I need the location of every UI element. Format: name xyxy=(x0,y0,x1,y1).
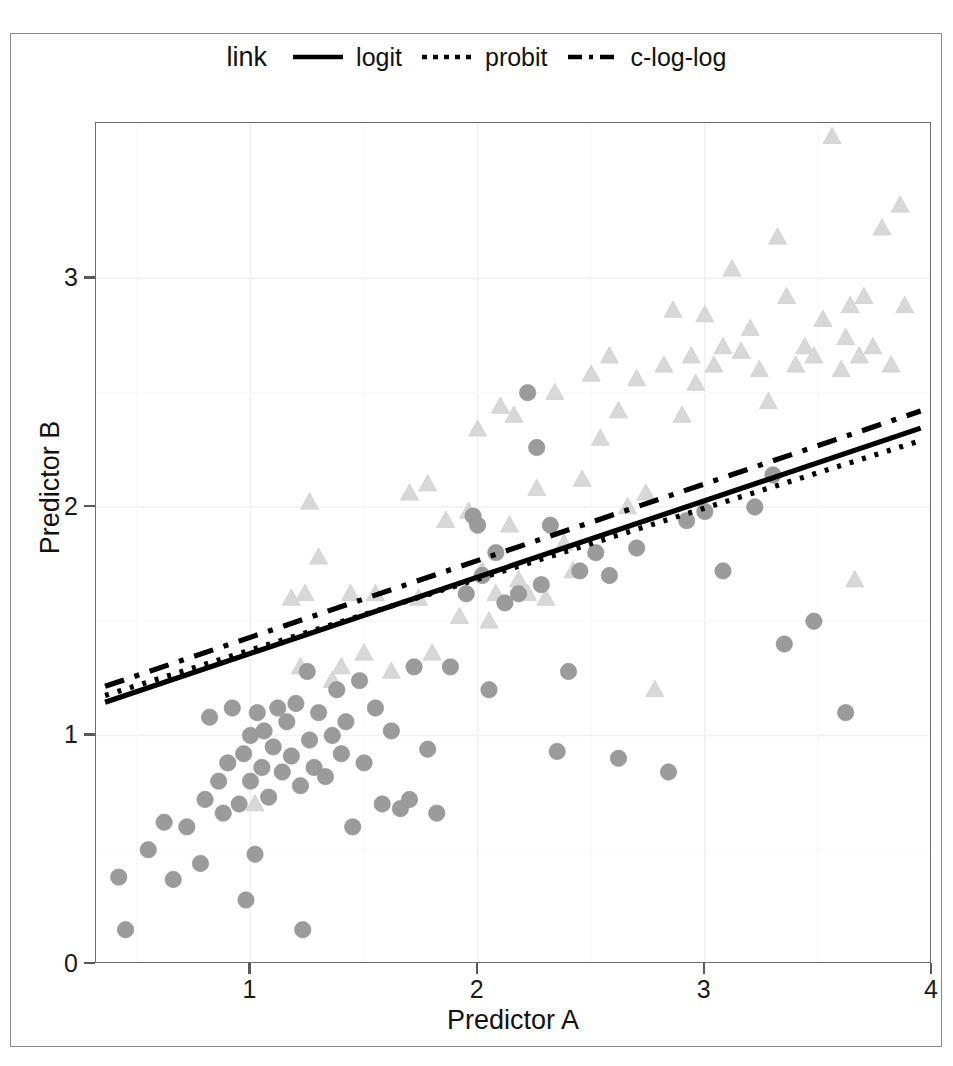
legend-label-logit: logit xyxy=(356,43,402,72)
x-tick-label-3: 3 xyxy=(697,975,711,1004)
fit-line-layer xyxy=(105,411,921,702)
y-tick-label-1: 1 xyxy=(64,720,78,749)
legend: link logit probit c-log-l xyxy=(0,34,953,80)
x-tick-mark-4 xyxy=(930,963,932,974)
legend-item-probit[interactable]: probit xyxy=(420,43,548,72)
y-tick-mark-3 xyxy=(84,276,95,278)
solid-line-key xyxy=(291,50,345,64)
scatter-series-triangles xyxy=(246,127,914,811)
dotted-line-key xyxy=(420,50,474,64)
y-axis-title: Predictor B xyxy=(35,338,66,638)
plot-panel[interactable] xyxy=(95,122,931,963)
legend-item-c-log-log[interactable]: c-log-log xyxy=(566,43,727,72)
y-tick-label-2: 2 xyxy=(64,491,78,520)
legend-label-probit: probit xyxy=(485,43,548,72)
dashed-line-key xyxy=(566,50,620,64)
y-tick-mark-0 xyxy=(84,962,95,964)
plot-canvas xyxy=(96,123,931,963)
legend-item-logit[interactable]: logit xyxy=(291,43,402,72)
y-tick-mark-1 xyxy=(84,733,95,735)
y-tick-label-3: 3 xyxy=(64,263,78,292)
x-tick-mark-2 xyxy=(476,963,478,974)
x-tick-mark-3 xyxy=(703,963,705,974)
legend-label-c-log-log: c-log-log xyxy=(631,43,727,72)
x-tick-label-2: 2 xyxy=(470,975,484,1004)
x-tick-mark-1 xyxy=(248,963,250,974)
y-tick-mark-2 xyxy=(84,505,95,507)
y-tick-label-0: 0 xyxy=(64,949,78,978)
x-tick-label-1: 1 xyxy=(243,975,257,1004)
x-axis-title: Predictor A xyxy=(95,1005,931,1036)
grid-lines xyxy=(96,123,931,963)
legend-title: link xyxy=(227,42,268,73)
x-tick-label-4: 4 xyxy=(924,975,938,1004)
figure-container: link logit probit c-log-l xyxy=(0,0,953,1066)
